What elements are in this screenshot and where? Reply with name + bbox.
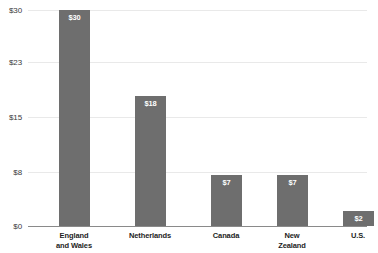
x-axis-label-line: Zealand — [249, 241, 335, 251]
bar-value-label: $30 — [59, 13, 90, 22]
bar-us[interactable]: $2 — [343, 211, 374, 226]
x-axis-label-england-and-wales: England and Wales — [31, 231, 117, 251]
x-axis-label-line: Netherlands — [107, 231, 193, 241]
x-axis-label-us: U.S. — [315, 231, 378, 241]
bar-netherlands[interactable]: $18 — [135, 96, 166, 226]
x-axis-label-netherlands: Netherlands — [107, 231, 193, 241]
bar-canada[interactable]: $7 — [211, 175, 242, 226]
y-axis-tick-label: $30 — [0, 6, 22, 15]
x-axis-label-line: England — [31, 231, 117, 241]
x-axis-line — [28, 226, 367, 227]
plot-area: $30 $18 $7 $7 $2 England and Wales Nethe… — [28, 0, 367, 226]
y-axis-tick-label: $23 — [0, 58, 22, 67]
bar-value-label: $7 — [277, 178, 308, 187]
bar-value-label: $2 — [343, 214, 374, 223]
x-axis-label-line: U.S. — [315, 231, 378, 241]
bar-new-zealand[interactable]: $7 — [277, 175, 308, 226]
y-axis-tick-label: $8 — [0, 168, 22, 177]
x-axis-label-line: and Wales — [31, 241, 117, 251]
bar-england-and-wales[interactable]: $30 — [59, 10, 90, 226]
y-axis-tick-label: $15 — [0, 113, 22, 122]
bar-value-label: $7 — [211, 178, 242, 187]
y-axis-tick-label: $0 — [0, 222, 22, 231]
bar-value-label: $18 — [135, 99, 166, 108]
